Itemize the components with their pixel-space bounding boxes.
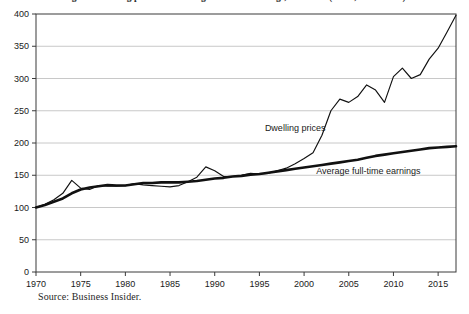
y-tick-label: 350 — [14, 41, 29, 51]
y-tick-label: 50 — [19, 235, 29, 245]
y-tick-label: 150 — [14, 170, 29, 180]
x-axis: 1970197519801985199019952000200520102015 — [26, 272, 448, 289]
x-tick-label: 2010 — [383, 279, 403, 289]
x-tick-label: 1980 — [115, 279, 135, 289]
source-note: Source: Business Insider. — [38, 291, 141, 302]
chart-plot: 050100150200250300350400 197019751980198… — [0, 0, 469, 290]
x-tick-label: 2000 — [294, 279, 314, 289]
x-tick-label: 1970 — [26, 279, 46, 289]
y-tick-label: 250 — [14, 106, 29, 116]
series-annotation-label: Dwelling prices — [265, 123, 326, 133]
y-tick-label: 200 — [14, 138, 29, 148]
y-tick-label: 400 — [14, 9, 29, 19]
figure-container: Figure: Dwelling prices and average full… — [0, 0, 469, 314]
y-tick-label: 300 — [14, 74, 29, 84]
y-axis: 050100150200250300350400 — [14, 9, 36, 277]
x-tick-label: 2015 — [428, 279, 448, 289]
x-tick-label: 1995 — [249, 279, 269, 289]
x-tick-label: 1975 — [71, 279, 91, 289]
x-tick-label: 2005 — [339, 279, 359, 289]
x-tick-label: 1990 — [205, 279, 225, 289]
x-tick-label: 1985 — [160, 279, 180, 289]
y-tick-label: 0 — [24, 267, 29, 277]
series-annotation-label: Average full-time earnings — [316, 166, 421, 176]
y-tick-label: 100 — [14, 203, 29, 213]
